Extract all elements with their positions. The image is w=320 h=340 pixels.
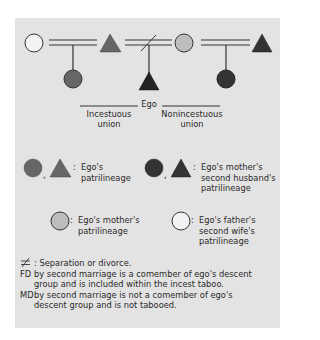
- father-daughter-circle: [64, 70, 82, 88]
- legend-line: patrilineage: [73, 173, 131, 184]
- legend-mother-patrilineage: :Ego's mother's patrilineage: [70, 215, 140, 236]
- incestuous-union-label: Incestuous union: [72, 109, 146, 129]
- mother-circle: [175, 34, 193, 52]
- legend-line: Ego's mother's: [201, 162, 263, 173]
- md-note-line2: descent group and is not tabooed.: [20, 300, 282, 311]
- separation-note: : Separation or divorce.: [34, 258, 131, 269]
- marriage-line-father-second-wife: [49, 40, 97, 45]
- legend-line: second wife's: [191, 226, 255, 237]
- legend-mother-second-husband-triangle-icon: [171, 159, 191, 177]
- fd-note-line1: by second marriage is a comember of ego'…: [34, 269, 252, 280]
- md-note-line1: by second marriage is not a comember of …: [34, 290, 233, 301]
- legend-ego-patrilineage-circle-icon: [24, 159, 42, 177]
- fd-note-line2: group and is included within the incest …: [20, 279, 282, 290]
- mother-second-husband-triangle: [252, 34, 272, 52]
- fd-key: FD: [20, 269, 34, 280]
- legend-line: Ego's father's: [199, 215, 255, 226]
- incestuous-label-line2: union: [72, 119, 146, 129]
- legend-line: Ego's mother's: [78, 215, 140, 226]
- legend-comma: ,: [43, 170, 46, 180]
- mother-daughter-circle: [217, 70, 235, 88]
- father-second-wife-circle: [25, 34, 43, 52]
- notes: : Separation or divorce. FDby second mar…: [20, 258, 282, 311]
- nonincestuous-label-line2: union: [152, 119, 232, 129]
- md-key: MD: [20, 290, 34, 301]
- legend-line: patrilineage: [193, 183, 276, 194]
- legend-line: patrilineage: [70, 226, 140, 237]
- nonincestuous-union-label: Nonincestuous union: [152, 109, 232, 129]
- ego-triangle: [139, 72, 159, 90]
- legend-mother-second-husband-patrilineage: :Ego's mother's second husband's patrili…: [193, 162, 276, 194]
- legend-line: second husband's: [193, 173, 276, 184]
- legend-line: patrilineage: [191, 236, 255, 247]
- legend-mother-patrilineage-circle-icon: [51, 212, 69, 230]
- legend-ego-patrilineage: :Ego's patrilineage: [73, 162, 131, 183]
- nonincestuous-label-line1: Nonincestuous: [152, 109, 232, 119]
- ego-label: Ego: [130, 99, 168, 109]
- legend-comma: ,: [164, 170, 167, 180]
- incestuous-label-line1: Incestuous: [72, 109, 146, 119]
- father-triangle: [100, 34, 121, 52]
- legend-father-second-wife-circle-icon: [172, 212, 190, 230]
- legend-line: Ego's: [81, 162, 103, 173]
- legend-ego-patrilineage-triangle-icon: [50, 159, 71, 177]
- legend-father-second-wife-patrilineage: :Ego's father's second wife's patrilinea…: [191, 215, 255, 247]
- legend-mother-second-husband-circle-icon: [145, 159, 163, 177]
- marriage-line-mother-second-husband: [201, 40, 250, 45]
